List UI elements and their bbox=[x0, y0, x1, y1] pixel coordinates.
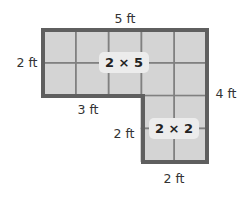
top-width-label: 5 ft bbox=[114, 11, 135, 26]
composite-shape-diagram: 2 × 5 2 × 2 5 ft 2 ft 4 ft 3 ft 2 ft 2 f… bbox=[0, 0, 246, 197]
top-height-label: 2 ft bbox=[16, 55, 37, 70]
top-area-label: 2 × 5 bbox=[105, 55, 143, 70]
bottom-height-label: 2 ft bbox=[113, 126, 134, 141]
right-height-label: 4 ft bbox=[215, 86, 236, 101]
bottom-width-label: 2 ft bbox=[163, 171, 184, 186]
notch-width-label: 3 ft bbox=[77, 102, 98, 117]
bottom-area-label: 2 × 2 bbox=[155, 121, 193, 136]
